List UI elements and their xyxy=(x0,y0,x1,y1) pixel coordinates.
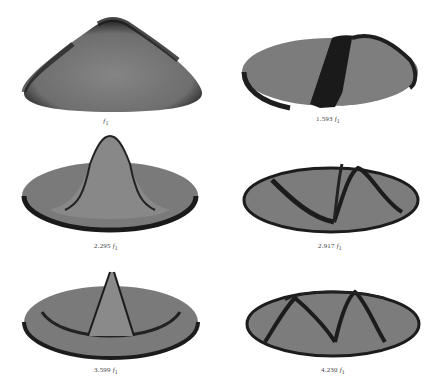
mode-5-caption: 3.599 f1 xyxy=(94,366,118,375)
dome-surface xyxy=(18,14,208,114)
mode-5-panel xyxy=(22,266,200,362)
two-nodal-diameters-surface xyxy=(242,160,420,240)
mode-2-caption: 1.593 f1 xyxy=(316,115,340,124)
caption-subscript: 1 xyxy=(106,120,109,126)
diameter-circle-surface xyxy=(22,266,200,362)
caption-multiplier: 2.295 xyxy=(94,242,111,250)
mode-2-panel xyxy=(240,32,420,112)
mode-1-caption: f1 xyxy=(103,117,108,126)
three-nodal-diameters-surface xyxy=(245,286,421,362)
caption-multiplier: 1.593 xyxy=(316,115,333,123)
caption-subscript: 1 xyxy=(337,118,340,124)
mode-6-panel xyxy=(245,286,421,362)
caption-subscript: 1 xyxy=(342,369,345,375)
mode-1-panel xyxy=(18,14,208,114)
mode-4-caption: 2.917 f1 xyxy=(318,242,342,251)
caption-subscript: 1 xyxy=(339,245,342,251)
caption-multiplier: 4.230 xyxy=(321,366,338,374)
central-peak-surface xyxy=(20,134,200,238)
caption-subscript: 1 xyxy=(115,245,118,251)
nodal-diameter-surface xyxy=(240,32,420,112)
mode-4-panel xyxy=(242,160,420,240)
caption-multiplier: 3.599 xyxy=(94,366,111,374)
caption-subscript: 1 xyxy=(115,369,118,375)
mode-3-panel xyxy=(20,134,200,238)
caption-multiplier: 2.917 xyxy=(318,242,335,250)
mode-3-caption: 2.295 f1 xyxy=(94,242,118,251)
mode-6-caption: 4.230 f1 xyxy=(321,366,345,375)
